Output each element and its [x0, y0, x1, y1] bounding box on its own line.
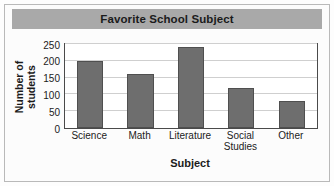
x-tick-label: Math	[128, 130, 150, 141]
y-tick-label: 50	[49, 106, 60, 117]
x-tick-label-line: Literature	[169, 130, 211, 141]
y-tick-label: 200	[43, 56, 60, 67]
y-axis-title-line2: students	[25, 61, 37, 114]
y-tick-label: 100	[43, 89, 60, 100]
y-tick-label: 150	[43, 73, 60, 84]
bar	[127, 74, 153, 128]
plot-area	[64, 43, 318, 129]
x-axis-title: Subject	[64, 157, 316, 169]
x-axis-tick-labels: ScienceMathLiteratureSocialStudiesOther	[64, 130, 316, 154]
x-tick-label-line: Studies	[224, 141, 257, 152]
bar	[178, 47, 204, 128]
gridline	[65, 43, 317, 44]
bar	[77, 61, 103, 128]
x-tick-label: SocialStudies	[224, 130, 257, 152]
y-axis-tick-labels: 050100150200250	[38, 39, 62, 131]
chart-title-band: Favorite School Subject	[12, 9, 322, 29]
y-tick-label: 250	[43, 39, 60, 50]
chart-title: Favorite School Subject	[100, 13, 233, 25]
x-tick-label: Literature	[169, 130, 211, 141]
y-tick-label: 0	[54, 123, 60, 134]
chart-figure: Favorite School Subject Number of studen…	[0, 0, 334, 186]
x-tick-label-line: Social	[227, 130, 254, 141]
y-axis-title-line1: Number of	[13, 61, 25, 114]
bar	[279, 101, 305, 128]
x-tick-label-line: Science	[71, 130, 107, 141]
x-tick-label-line: Math	[128, 130, 150, 141]
x-tick-label-line: Other	[278, 130, 303, 141]
y-axis-title: Number of students	[10, 44, 40, 130]
bar	[228, 88, 254, 128]
x-tick-label: Science	[71, 130, 107, 141]
x-tick-label: Other	[278, 130, 303, 141]
